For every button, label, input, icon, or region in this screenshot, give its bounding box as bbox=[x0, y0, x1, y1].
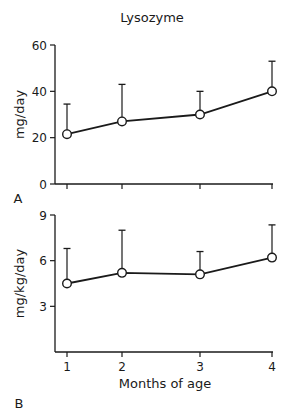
data-point-marker bbox=[63, 130, 72, 139]
data-point-marker bbox=[63, 279, 72, 288]
x-tick-label: 4 bbox=[268, 360, 276, 374]
y-tick-label: 6 bbox=[39, 254, 47, 268]
panel-b-chart: 3691234mg/kg/dayMonths of ageB bbox=[12, 209, 276, 410]
y-tick-label: 40 bbox=[32, 85, 47, 99]
data-point-marker bbox=[118, 269, 127, 278]
data-line bbox=[67, 91, 272, 134]
data-point-marker bbox=[268, 253, 277, 262]
x-tick-label: 2 bbox=[118, 360, 126, 374]
y-tick-label: 9 bbox=[39, 209, 47, 223]
x-axis-label: Months of age bbox=[119, 376, 212, 391]
y-axis-label: mg/kg/day bbox=[12, 249, 27, 319]
figure-title: Lysozyme bbox=[120, 10, 184, 25]
data-point-marker bbox=[118, 117, 127, 126]
x-tick-label: 3 bbox=[196, 360, 204, 374]
data-point-marker bbox=[196, 270, 205, 279]
panel-label: A bbox=[14, 191, 23, 206]
panel-label: B bbox=[15, 396, 24, 410]
y-axis-label: mg/day bbox=[12, 90, 27, 140]
panel-a-chart: 0204060mg/dayA bbox=[12, 39, 276, 207]
data-point-marker bbox=[268, 87, 277, 96]
y-tick-label: 60 bbox=[32, 39, 47, 53]
data-line bbox=[67, 258, 272, 284]
x-tick-label: 1 bbox=[63, 360, 71, 374]
y-tick-label: 20 bbox=[32, 131, 47, 145]
lysozyme-figure: Lysozyme 0204060mg/dayA 3691234mg/kg/day… bbox=[0, 0, 291, 410]
y-tick-label: 3 bbox=[39, 300, 47, 314]
y-tick-label: 0 bbox=[39, 178, 47, 192]
data-point-marker bbox=[196, 110, 205, 119]
